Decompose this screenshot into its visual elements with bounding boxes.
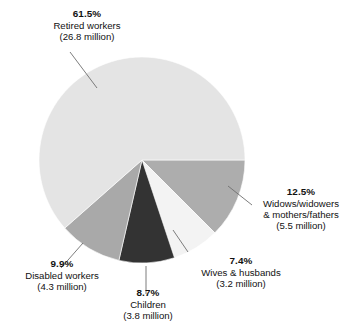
slice-name-wives: Wives & husbands (186, 267, 296, 278)
slice-label-disabled: 9.9% Disabled workers (4.3 million) (6, 258, 118, 292)
slice-percent-disabled: 9.9% (6, 258, 118, 270)
slice-label-widows: 12.5% Widows/widowers & mothers/fathers … (255, 186, 347, 232)
slice-percent-retired: 61.5% (12, 8, 162, 20)
slice-label-retired: 61.5% Retired workers (26.8 million) (12, 8, 162, 42)
slice-count-children: (3.8 million) (96, 310, 200, 321)
slice-label-wives: 7.4% Wives & husbands (3.2 million) (186, 255, 296, 289)
slice-percent-widows: 12.5% (255, 186, 347, 198)
slice-name-widows-line2: & mothers/fathers (255, 209, 347, 220)
slice-name-children: Children (96, 299, 200, 310)
slice-count-retired: (26.8 million) (12, 31, 162, 42)
slice-count-disabled: (4.3 million) (6, 281, 118, 292)
slice-name-retired: Retired workers (12, 20, 162, 31)
slice-percent-wives: 7.4% (186, 255, 296, 267)
slice-count-widows: (5.5 million) (255, 220, 347, 231)
slice-name-widows-line1: Widows/widowers (255, 198, 347, 209)
pie-slices (39, 57, 245, 263)
slice-count-wives: (3.2 million) (186, 278, 296, 289)
pie-chart: 61.5% Retired workers (26.8 million) 12.… (0, 0, 348, 335)
slice-name-disabled: Disabled workers (6, 270, 118, 281)
